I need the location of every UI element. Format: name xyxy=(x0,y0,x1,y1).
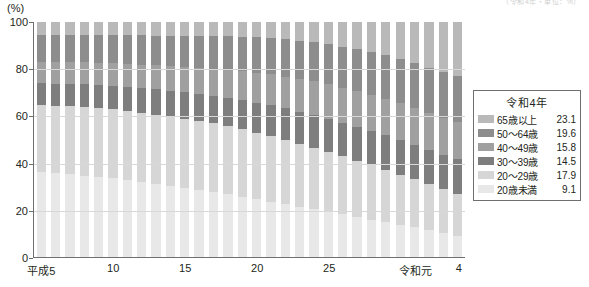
bar-segment xyxy=(108,86,117,110)
bar-segment xyxy=(108,109,117,178)
bar-segment xyxy=(123,35,132,64)
legend-value: 9.1 xyxy=(552,184,576,195)
bar-segment xyxy=(439,72,448,118)
bar-segment xyxy=(352,91,361,127)
bar-segment xyxy=(410,145,419,180)
bar-segment xyxy=(266,22,275,38)
bar-segment xyxy=(281,22,290,39)
bar-segment xyxy=(281,77,290,109)
x-axis-tick-label: 15 xyxy=(179,262,191,274)
bar-segment xyxy=(424,150,433,184)
bar-segment xyxy=(137,65,146,89)
bar-segment xyxy=(439,22,448,72)
bar-segment xyxy=(180,188,189,257)
bar-segment xyxy=(381,222,390,257)
bar-segment xyxy=(252,133,261,200)
bar-segment xyxy=(80,22,89,35)
stacked-bar xyxy=(180,22,189,257)
bar-segment xyxy=(238,100,247,129)
bar-segment xyxy=(51,35,60,62)
bar-segment xyxy=(338,214,347,257)
bar-slot xyxy=(249,22,263,257)
legend-label: 30〜39歳 xyxy=(497,154,552,169)
bar-segment xyxy=(137,113,146,183)
stacked-bar xyxy=(396,22,405,257)
bar-segment xyxy=(252,22,261,37)
bar-segment xyxy=(65,84,74,107)
y-axis-tick-mark xyxy=(29,22,33,23)
bar-segment xyxy=(194,190,203,257)
legend-swatch xyxy=(478,143,494,151)
bar-segment xyxy=(180,36,189,67)
legend-swatch xyxy=(478,115,494,123)
bar-segment xyxy=(151,115,160,185)
bar-segment xyxy=(266,136,275,202)
bar-segment xyxy=(439,118,448,155)
bar-segment xyxy=(338,88,347,123)
stacked-bar xyxy=(238,22,247,257)
bar-segment xyxy=(166,91,175,117)
bar-segment xyxy=(194,68,203,94)
bar-segment xyxy=(223,98,232,127)
bar-segment xyxy=(80,35,89,62)
bar-segment xyxy=(209,69,218,96)
bar-slot xyxy=(407,22,421,257)
bar-segment xyxy=(424,230,433,257)
bar-segment xyxy=(281,108,290,139)
y-axis-tick-mark xyxy=(29,211,33,212)
bar-segment xyxy=(209,22,218,36)
bar-segment xyxy=(252,73,261,103)
bar-slot xyxy=(149,22,163,257)
y-axis-tick-label: 80 xyxy=(16,63,28,75)
stacked-bar xyxy=(309,22,318,257)
bar-segment xyxy=(108,63,117,86)
x-axis-line xyxy=(33,257,465,258)
bar-segment xyxy=(324,44,333,84)
bar-segment xyxy=(295,22,304,41)
stacked-bar xyxy=(453,22,462,257)
bar-slot xyxy=(450,22,464,257)
bar-slot xyxy=(307,22,321,257)
bar-segment xyxy=(281,140,290,204)
legend-label: 65歳以上 xyxy=(497,112,552,127)
bar-segment xyxy=(252,199,261,257)
legend-row: 30〜39歳14.5 xyxy=(478,154,576,168)
bar-segment xyxy=(108,22,117,35)
bar-segment xyxy=(381,170,390,222)
bar-slot xyxy=(192,22,206,257)
bar-segment xyxy=(396,225,405,257)
bar-segment xyxy=(80,107,89,175)
bar-segment xyxy=(194,36,203,68)
bar-segment xyxy=(238,22,247,37)
legend-row: 50〜64歳19.6 xyxy=(478,126,576,140)
bar-segment xyxy=(51,173,60,257)
bar-slot xyxy=(422,22,436,257)
legend-value: 15.8 xyxy=(552,142,576,153)
stacked-bar xyxy=(151,22,160,257)
legend-rows: 65歳以上23.150〜64歳19.640〜49歳15.830〜39歳14.52… xyxy=(478,112,576,196)
bar-segment xyxy=(94,177,103,257)
bar-segment xyxy=(166,22,175,36)
x-axis-tick-label: 20 xyxy=(251,262,263,274)
bar-segment xyxy=(324,119,333,152)
legend-row: 40〜49歳15.8 xyxy=(478,140,576,154)
bar-slot xyxy=(135,22,149,257)
bar-slot xyxy=(63,22,77,257)
gridline xyxy=(34,211,465,212)
y-axis-tick-mark xyxy=(29,164,33,165)
bar-slot xyxy=(77,22,91,257)
bar-slot xyxy=(278,22,292,257)
bar-slot xyxy=(120,22,134,257)
bar-segment xyxy=(151,89,160,114)
bar-segment xyxy=(209,192,218,257)
bar-segment xyxy=(352,127,361,161)
x-axis-tick-label: 25 xyxy=(323,262,335,274)
bar-slot xyxy=(206,22,220,257)
bar-slot xyxy=(350,22,364,257)
bar-slot xyxy=(221,22,235,257)
legend-swatch xyxy=(478,171,494,179)
bar-slot xyxy=(178,22,192,257)
bar-segment xyxy=(123,180,132,257)
y-axis xyxy=(0,0,29,287)
bar-segment xyxy=(223,126,232,194)
